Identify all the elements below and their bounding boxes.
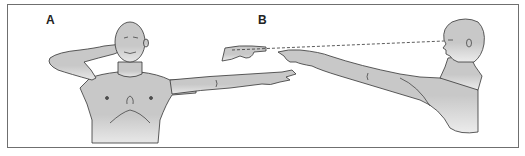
illustration	[0, 0, 525, 156]
sight-line	[232, 41, 444, 50]
figure-a	[49, 22, 296, 143]
